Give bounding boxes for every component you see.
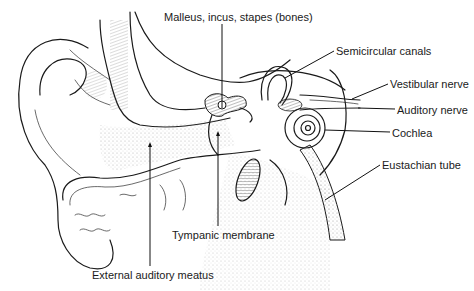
label-eustachian-tube: Eustachian tube bbox=[382, 159, 461, 171]
label-tympanic-membrane: Tympanic membrane bbox=[172, 229, 275, 241]
label-ossicles: Malleus, incus, stapes (bones) bbox=[164, 11, 313, 23]
cochlea-shape bbox=[278, 99, 325, 148]
label-auditory-nerve: Auditory nerve bbox=[397, 104, 468, 116]
label-external-auditory-meatus: External auditory meatus bbox=[92, 269, 214, 281]
mastoid-texture bbox=[75, 180, 186, 231]
label-semicircular-canals: Semicircular canals bbox=[336, 45, 431, 57]
ear-canal bbox=[100, 118, 235, 170]
temporal-region bbox=[70, 12, 290, 127]
label-vestibular-nerve: Vestibular nerve bbox=[390, 78, 469, 90]
label-cochlea: Cochlea bbox=[392, 127, 432, 139]
ear-anatomy-diagram: Malleus, incus, stapes (bones) Semicircu… bbox=[0, 0, 474, 291]
ear-drawing bbox=[0, 0, 474, 291]
lower-tissue bbox=[200, 150, 330, 290]
